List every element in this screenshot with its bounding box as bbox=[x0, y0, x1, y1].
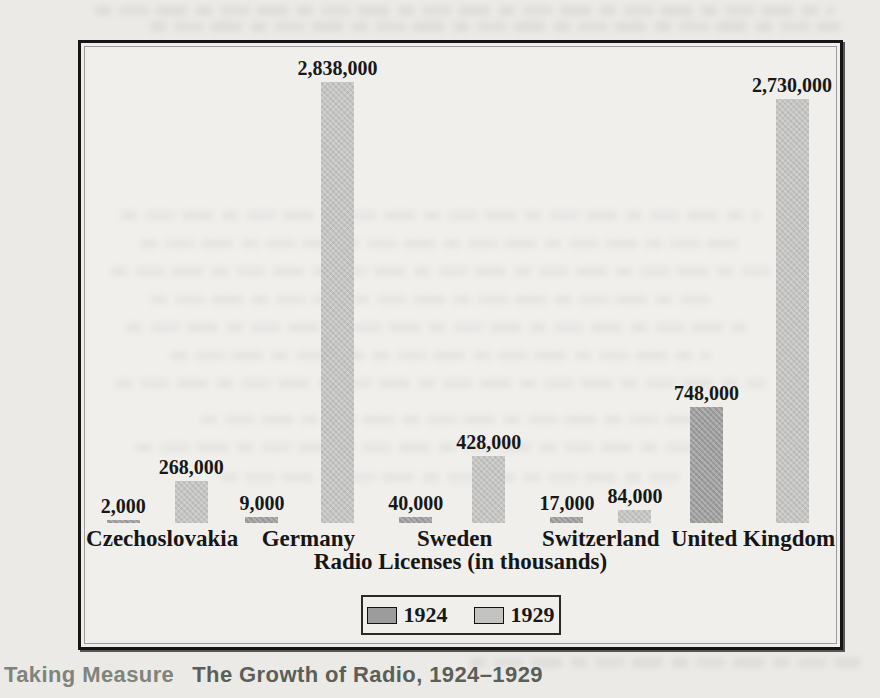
ghost-text-line bbox=[150, 22, 840, 31]
bar-group: 748,0002,730,000United Kingdom bbox=[674, 43, 832, 523]
bar-value-label: 2,838,000 bbox=[297, 58, 377, 79]
bar-plot: 2,000268,000Czechoslovakia9,0002,838,000… bbox=[89, 43, 832, 523]
bar-column: 268,000 bbox=[159, 457, 224, 523]
bar-1924 bbox=[399, 517, 432, 523]
bar-value-label: 84,000 bbox=[607, 486, 662, 507]
bar-column: 9,000 bbox=[239, 493, 284, 523]
bar-1929 bbox=[472, 456, 505, 523]
bar-pair: 2,000268,000 bbox=[101, 457, 224, 523]
bar-value-label: 17,000 bbox=[539, 493, 594, 514]
chart-frame: 2,000268,000Czechoslovakia9,0002,838,000… bbox=[78, 40, 843, 650]
bar-group: 2,000268,000Czechoslovakia bbox=[89, 43, 235, 523]
caption-title: The Growth of Radio, 1924–1929 bbox=[192, 662, 543, 687]
bar-1929 bbox=[618, 510, 651, 523]
bar-pair: 40,000428,000 bbox=[388, 432, 521, 523]
bar-1924 bbox=[690, 407, 723, 523]
bar-pair: 9,0002,838,000 bbox=[239, 58, 377, 523]
bar-pair: 17,00084,000 bbox=[539, 486, 662, 523]
bar-column: 748,000 bbox=[674, 383, 739, 523]
bar-1929 bbox=[175, 481, 208, 523]
bar-value-label: 748,000 bbox=[674, 383, 739, 404]
bar-1929 bbox=[321, 82, 354, 523]
bar-group: 17,00084,000Switzerland bbox=[528, 43, 674, 523]
bar-column: 2,838,000 bbox=[297, 58, 377, 523]
bar-column: 2,000 bbox=[101, 496, 146, 523]
legend-box: 1924 1929 bbox=[361, 595, 561, 635]
bar-column: 40,000 bbox=[388, 493, 443, 523]
ghost-text-line bbox=[95, 6, 835, 15]
bar-column: 2,730,000 bbox=[752, 75, 832, 523]
bar-value-label: 9,000 bbox=[239, 493, 284, 514]
figure-caption: Taking MeasureThe Growth of Radio, 1924–… bbox=[4, 662, 543, 688]
bar-value-label: 428,000 bbox=[456, 432, 521, 453]
bar-column: 428,000 bbox=[456, 432, 521, 523]
bar-1924 bbox=[550, 517, 583, 523]
bar-value-label: 40,000 bbox=[388, 493, 443, 514]
plot-area: 2,000268,000Czechoslovakia9,0002,838,000… bbox=[81, 43, 840, 647]
bar-group: 40,000428,000Sweden bbox=[382, 43, 528, 523]
axis-title: Radio Licenses (in thousands) bbox=[81, 549, 840, 575]
legend-swatch-1929 bbox=[474, 607, 504, 624]
legend-item-1924: 1924 bbox=[367, 602, 448, 628]
legend-item-1929: 1929 bbox=[474, 602, 555, 628]
bar-1924 bbox=[107, 520, 140, 523]
legend-swatch-1924 bbox=[367, 607, 397, 624]
bar-1924 bbox=[245, 517, 278, 523]
legend-label-1929: 1929 bbox=[511, 602, 555, 628]
bar-value-label: 2,000 bbox=[101, 496, 146, 517]
bar-column: 84,000 bbox=[607, 486, 662, 523]
bar-group: 9,0002,838,000Germany bbox=[235, 43, 381, 523]
bar-pair: 748,0002,730,000 bbox=[674, 75, 832, 523]
bar-value-label: 268,000 bbox=[159, 457, 224, 478]
bar-1929 bbox=[776, 99, 809, 523]
caption-lead: Taking Measure bbox=[4, 662, 174, 687]
legend-label-1924: 1924 bbox=[404, 602, 448, 628]
bar-column: 17,000 bbox=[539, 493, 594, 523]
bar-value-label: 2,730,000 bbox=[752, 75, 832, 96]
